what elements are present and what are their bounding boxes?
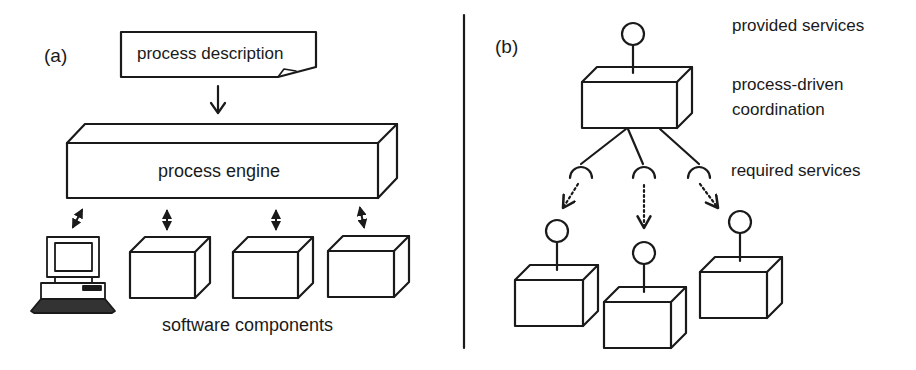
dotted-arrow-3-icon — [700, 184, 718, 208]
computer-arrow-icon — [73, 210, 82, 227]
software-component-2 — [233, 237, 313, 298]
service-component-1 — [515, 220, 598, 326]
component-3-arrow-icon — [360, 208, 364, 227]
coordination-box — [582, 67, 692, 128]
required-services-label: required services — [731, 161, 860, 181]
required-service-socket-icons — [570, 167, 710, 178]
software-component-3 — [328, 236, 409, 297]
software-components-label: software components — [162, 315, 333, 336]
software-component-1 — [130, 237, 210, 298]
component-1-provided-icon — [546, 220, 568, 242]
process-engine-label: process engine — [158, 161, 280, 182]
service-component-3 — [700, 211, 782, 318]
socket-1-icon — [570, 167, 592, 178]
desktop-computer-icon — [31, 237, 115, 313]
dotted-dependency-arrows — [563, 184, 718, 228]
socket-2-icon — [633, 167, 655, 178]
bidirectional-arrows — [73, 208, 364, 229]
provided-services-label: provided services — [732, 16, 864, 36]
process-description-label: process description — [137, 44, 283, 64]
coordination-label-line1: process-driven — [732, 75, 844, 95]
provided-service-lollipop-icon — [622, 23, 644, 73]
service-component-2 — [604, 242, 686, 348]
coordination-label-line2: coordination — [732, 100, 825, 120]
panel-a-label: (a) — [44, 45, 67, 67]
dotted-arrow-1-icon — [563, 184, 578, 208]
socket-3-icon — [688, 167, 710, 178]
panel-b-label: (b) — [495, 36, 518, 58]
down-arrow-icon — [211, 86, 225, 113]
required-service-connectors — [581, 129, 699, 164]
component-3-provided-icon — [729, 211, 751, 233]
component-2-provided-icon — [633, 242, 655, 264]
